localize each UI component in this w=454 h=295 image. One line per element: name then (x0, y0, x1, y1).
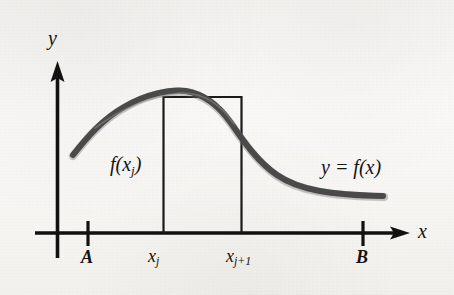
tick-label-b: B (356, 248, 368, 266)
tick-label-a: A (81, 248, 93, 266)
fxj-tail: ) (135, 153, 142, 175)
x-axis-label: x (418, 221, 427, 241)
rectangle-height-label: f(xj) (110, 154, 141, 177)
xj-subscript: j (156, 254, 159, 268)
figure-canvas: y x A B f(xj) xj xj+1 y = f(x) (0, 0, 454, 295)
xj-head: x (148, 246, 156, 266)
tick-label-xj-plus-1: xj+1 (226, 247, 251, 268)
tick-label-xj: xj (148, 247, 159, 268)
xj1-subscript: j+1 (234, 254, 251, 268)
fxj-head: f(x (110, 153, 131, 175)
xj1-head: x (226, 246, 234, 266)
curve-equation-label: y = f(x) (321, 157, 381, 177)
y-axis-label: y (48, 28, 57, 48)
function-curve (73, 91, 383, 196)
